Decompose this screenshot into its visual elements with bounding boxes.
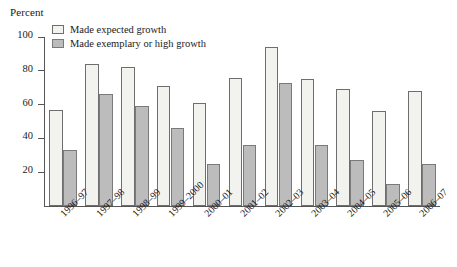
- x-tick-label: 2003–04: [309, 211, 317, 219]
- legend-item-expected: Made expected growth: [52, 23, 206, 36]
- bar-group: [85, 37, 113, 206]
- x-tick-label: 1998–99: [130, 211, 138, 219]
- y-tick-mark: [38, 138, 44, 139]
- bar-expected-growth: [229, 78, 243, 206]
- bar-group: [408, 37, 436, 206]
- x-tick-label: 2004–05: [345, 211, 353, 219]
- y-tick-label: 60: [0, 97, 33, 108]
- bar-exemplary-growth: [279, 83, 293, 206]
- x-tick-label: 2006–07: [417, 211, 425, 219]
- y-tick-mark: [38, 172, 44, 173]
- bar-expected-growth: [408, 91, 422, 206]
- bar-expected-growth: [85, 64, 99, 206]
- bar-expected-growth: [265, 47, 279, 206]
- chart-legend: Made expected growth Made exemplary or h…: [52, 23, 206, 51]
- y-tick-label: 20: [0, 164, 33, 175]
- y-tick-label: 100: [0, 29, 33, 40]
- legend-swatch-expected: [52, 25, 64, 34]
- bar-exemplary-growth: [135, 106, 149, 206]
- y-tick-mark: [38, 37, 44, 38]
- bar-exemplary-growth: [99, 94, 113, 206]
- legend-label-exemplary: Made exemplary or high growth: [70, 37, 206, 50]
- x-tick-label: 2000–01: [202, 211, 210, 219]
- y-tick-mark: [38, 104, 44, 105]
- bar-group: [157, 37, 185, 206]
- x-tick-label: 2005–06: [381, 211, 389, 219]
- bar-group: [372, 37, 400, 206]
- x-tick-label: 1999–2000: [166, 211, 174, 219]
- bar-expected-growth: [121, 67, 135, 206]
- bar-group: [229, 37, 257, 206]
- bar-group: [301, 37, 329, 206]
- y-tick-label: 80: [0, 63, 33, 74]
- bar-group: [49, 37, 77, 206]
- legend-swatch-exemplary: [52, 39, 64, 48]
- bar-group: [121, 37, 149, 206]
- x-axis-labels: 1996–971997–981998–991999–20002000–01200…: [45, 207, 440, 267]
- percent-bar-chart: Percent 20406080100 Made expected growth…: [0, 0, 457, 267]
- bar-group: [265, 37, 293, 206]
- legend-item-exemplary: Made exemplary or high growth: [52, 37, 206, 50]
- bar-expected-growth: [301, 79, 315, 206]
- x-tick-label: 2001–02: [238, 211, 246, 219]
- bar-expected-growth: [49, 110, 63, 206]
- y-tick-label: 40: [0, 130, 33, 141]
- x-tick-label: 1997–98: [94, 211, 102, 219]
- bar-group: [336, 37, 364, 206]
- y-axis-title: Percent: [10, 6, 44, 18]
- bar-expected-growth: [336, 89, 350, 206]
- bar-expected-growth: [157, 86, 171, 206]
- x-tick-label: 1996–97: [58, 211, 66, 219]
- bars-layer: [45, 37, 440, 206]
- legend-label-expected: Made expected growth: [70, 23, 166, 36]
- x-tick-label: 2002–03: [273, 211, 281, 219]
- y-tick-mark: [38, 70, 44, 71]
